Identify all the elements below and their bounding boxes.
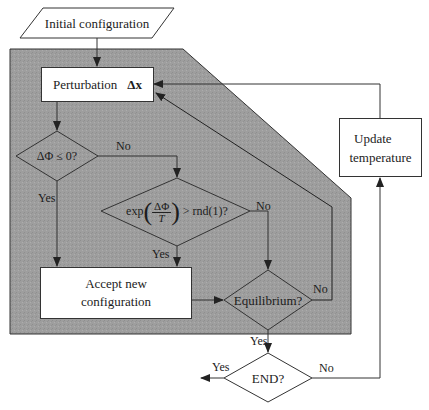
edge-label-eq-yes: Yes <box>250 335 267 347</box>
update-temperature-box: Update temperature <box>339 118 422 177</box>
decision2-prefix: exp <box>126 204 143 218</box>
decision2-label: exp(ΔΦT) > rnd(1)? <box>126 199 228 225</box>
perturbation-label: Perturbation <box>53 77 117 93</box>
start-node-label: Initial configuration <box>45 17 149 30</box>
decision1-label: ΔΦ ≤ 0? <box>37 150 77 162</box>
perturbation-box: Perturbation Δx <box>41 67 154 102</box>
decision2-suffix: > rnd(1)? <box>183 204 228 218</box>
decision2-fraction: ΔΦT <box>152 201 171 224</box>
accept-box: Accept new configuration <box>40 267 192 319</box>
flowchart-canvas: Initial configuration Perturbation Δx ΔΦ… <box>0 0 429 410</box>
equilibrium-label: Equilibrium? <box>234 294 303 307</box>
update-line2: temperature <box>349 148 411 167</box>
perturbation-symbol: Δx <box>127 77 142 93</box>
edge-label-d1-yes: Yes <box>38 192 55 204</box>
edge-label-end-yes: Yes <box>212 361 229 373</box>
edge-label-d2-no: No <box>256 200 271 212</box>
edge-label-end-no: No <box>319 362 334 374</box>
accept-line1: Accept new <box>85 275 147 293</box>
update-line1: Update <box>354 129 392 148</box>
edge-label-eq-no: No <box>313 283 328 295</box>
edge-label-d2-yes: Yes <box>152 248 169 260</box>
accept-line2: configuration <box>81 293 151 311</box>
end-label: END? <box>252 372 285 385</box>
edge-label-d1-no: No <box>116 140 131 152</box>
